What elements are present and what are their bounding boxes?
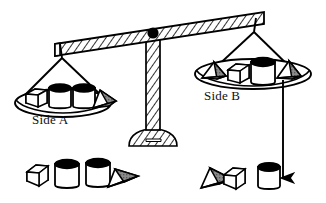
balance-scale-figure: Side A Side B [0,0,326,203]
stand-column [146,33,160,130]
legend-b-box [224,168,245,189]
legend-a-cylinder-1 [55,160,79,188]
pan-a-cylinder-2 [73,84,95,108]
stand-base [129,129,177,146]
legend-a-box [27,165,48,186]
scale-stand [129,33,177,146]
legend-side-b [201,163,280,189]
legend-a-cylinder-2 [86,159,110,187]
pan-b-cylinder [251,58,275,85]
side-a-label: Side A [32,112,68,128]
legend-b-cylinder [258,163,280,189]
side-b-label: Side B [204,88,240,104]
pan-b-box [228,64,249,83]
figure-canvas [0,0,326,203]
legend-side-a [27,159,138,188]
pan-a-cylinder-1 [49,84,71,108]
pan-a-box [26,89,47,107]
side-b-pan [195,58,311,89]
fulcrum-pivot-icon [147,27,158,38]
stand-base-slot [146,139,161,142]
legend-a-pyramid [108,169,138,187]
